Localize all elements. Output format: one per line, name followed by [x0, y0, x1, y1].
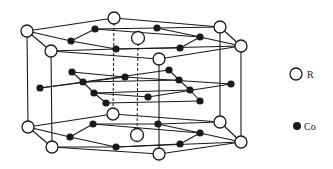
co-atom [175, 76, 182, 83]
bottom-hexagon-edge [52, 147, 159, 154]
co-atom [67, 37, 74, 44]
co-atom [66, 133, 73, 140]
r-atom [153, 53, 165, 65]
top-layer-bond [71, 29, 95, 41]
bottom-hexagon-edge [113, 114, 220, 122]
co-atom [176, 44, 183, 51]
co-atom [196, 129, 203, 136]
vertical-cell-edge [113, 18, 114, 114]
top-layer-bond [51, 49, 116, 51]
r-atom-center [132, 32, 145, 45]
co-atom [112, 45, 119, 52]
bottom-layer-bond [158, 122, 220, 124]
co-atom [196, 33, 203, 40]
co-atom [154, 120, 161, 127]
r-atom [45, 45, 57, 57]
legend-label-co: Co [304, 121, 316, 132]
r-atom [22, 121, 34, 133]
center-axis-line [137, 38, 138, 135]
r-atom [46, 141, 58, 153]
top-layer-bond [95, 28, 157, 29]
co-atom [186, 86, 193, 93]
top-hexagon-edge [51, 51, 159, 59]
co-atom [165, 66, 172, 73]
r-atom-legend-icon [290, 68, 302, 80]
co-atom-legend-icon [293, 122, 301, 130]
co-atom [90, 89, 97, 96]
r-atom [214, 116, 226, 128]
co-atom [79, 78, 86, 85]
co-atom [102, 99, 109, 106]
co-atom [121, 73, 128, 80]
co-atom [176, 140, 183, 147]
co-atom [196, 97, 203, 104]
r-atom [235, 136, 247, 148]
co-atom [144, 93, 151, 100]
top-layer-bond [157, 27, 220, 28]
co-atom [36, 84, 43, 91]
legend-label-r: R [307, 69, 314, 80]
crystal-structure-diagram: R Co [0, 0, 333, 169]
middle-layer-bond [94, 93, 148, 97]
r-atom [108, 12, 120, 24]
co-atom [89, 120, 96, 127]
legend: R Co [290, 68, 316, 132]
top-hexagon-edge [114, 18, 220, 27]
r-atom [107, 108, 119, 120]
middle-layer-bond [106, 101, 200, 103]
co-atom [227, 80, 234, 87]
legend-item-r: R [290, 68, 314, 80]
bottom-layer-bond [70, 137, 116, 147]
vertical-cell-edge [27, 31, 28, 127]
legend-item-co: Co [293, 121, 316, 132]
middle-layer-bond [72, 72, 125, 77]
bottom-layer-bond [70, 124, 93, 137]
co-atom [112, 143, 119, 150]
r-atom [235, 40, 247, 52]
co-atom [68, 68, 75, 75]
co-atom [91, 25, 98, 32]
bottom-layer-bond [93, 124, 200, 133]
top-layer-bond [71, 41, 116, 49]
top-layer-bond [95, 29, 200, 37]
r-atom [153, 148, 165, 160]
r-atom [214, 21, 226, 33]
co-atom [153, 24, 160, 31]
r-atom [21, 25, 33, 37]
r-atom-center [131, 129, 144, 142]
